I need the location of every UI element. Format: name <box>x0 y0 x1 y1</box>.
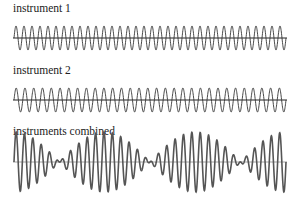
waveforms-diagram <box>0 0 294 202</box>
